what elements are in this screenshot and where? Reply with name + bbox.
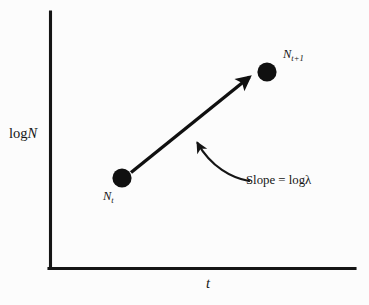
point-label-nt-plus-1-subscript: t+1 — [291, 53, 303, 63]
slope-annotation-label: Slope = logλ — [246, 174, 311, 187]
x-axis-label-text: t — [206, 275, 210, 291]
log-population-growth-figure: logN t Nt Nt+1 Slope = logλ — [0, 0, 369, 305]
point-label-nt: Nt — [103, 190, 114, 203]
data-point-nt-plus-1 — [257, 62, 276, 81]
y-axis-label: logN — [9, 126, 37, 141]
x-axis-label: t — [206, 276, 210, 291]
point-label-nt-plus-1: Nt+1 — [283, 48, 304, 61]
point-label-nt-subscript: t — [111, 195, 113, 205]
annotation-arrow — [198, 143, 250, 181]
y-axis-label-text: log — [9, 125, 28, 141]
axes-group — [49, 12, 355, 269]
y-axis-label-variable: N — [28, 125, 38, 141]
data-point-nt — [112, 168, 131, 187]
slope-arrow — [131, 77, 250, 173]
figure-canvas — [0, 0, 369, 305]
